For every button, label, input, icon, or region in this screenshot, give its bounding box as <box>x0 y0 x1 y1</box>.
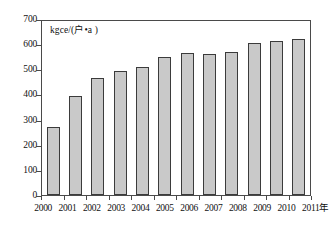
bar-series <box>42 21 310 195</box>
bar-slot <box>243 21 265 195</box>
x-tick-label: 2008 <box>226 203 250 213</box>
x-tick-mark <box>199 196 200 200</box>
bar-slot <box>64 21 86 195</box>
bar <box>136 67 149 196</box>
x-tick-mark <box>289 196 290 200</box>
bar-chart: 700 600 500 400 300 200 100 0 kgce/(户•a … <box>0 0 331 231</box>
bar-slot <box>109 21 131 195</box>
bar-slot <box>131 21 153 195</box>
bar <box>91 78 104 195</box>
y-tick-label: 400 <box>3 90 37 99</box>
y-tick-label: 300 <box>3 116 37 125</box>
x-tick-label: 2007 <box>201 203 225 213</box>
x-axis-labels: 2000 2001 2002 2003 2004 2005 2006 2007 … <box>31 203 323 217</box>
bar <box>248 43 261 195</box>
bar <box>69 96 82 195</box>
bar-slot <box>198 21 220 195</box>
y-tick-label: 0 <box>3 191 37 200</box>
y-tick-label: 700 <box>3 15 37 24</box>
x-tick-mark <box>41 196 42 200</box>
y-tick-label: 600 <box>3 40 37 49</box>
bar <box>114 71 127 195</box>
y-tick-label: 100 <box>3 166 37 175</box>
bar <box>158 57 171 195</box>
x-tick-mark <box>176 196 177 200</box>
bar-slot <box>154 21 176 195</box>
x-tick-label: 2002 <box>80 203 104 213</box>
y-tick-label: 500 <box>3 65 37 74</box>
x-axis-unit-label: 年 <box>319 203 329 213</box>
bar-slot <box>265 21 287 195</box>
x-tick-mark <box>221 196 222 200</box>
bar-slot <box>42 21 64 195</box>
x-tick-mark <box>131 196 132 200</box>
x-tick-mark <box>266 196 267 200</box>
x-tick-label: 2000 <box>31 203 55 213</box>
bar <box>203 54 216 195</box>
bar <box>47 127 60 195</box>
x-tick-label: 2001 <box>55 203 79 213</box>
x-tick-label: 2003 <box>104 203 128 213</box>
x-tick-label: 2004 <box>128 203 152 213</box>
x-tick-label: 2006 <box>177 203 201 213</box>
bar-slot <box>176 21 198 195</box>
bar <box>292 39 305 195</box>
x-tick-mark <box>64 196 65 200</box>
bar-slot <box>221 21 243 195</box>
x-tick-mark <box>109 196 110 200</box>
x-tick-label: 2010 <box>274 203 298 213</box>
x-tick-label: 2009 <box>250 203 274 213</box>
bar <box>181 53 194 195</box>
bar-slot <box>87 21 109 195</box>
bar-slot <box>288 21 310 195</box>
x-tick-mark <box>244 196 245 200</box>
x-tick-label: 2005 <box>153 203 177 213</box>
x-tick-mark <box>311 196 312 200</box>
bar <box>270 41 283 195</box>
x-tick-mark <box>86 196 87 200</box>
bar <box>225 52 238 195</box>
x-tick-mark <box>154 196 155 200</box>
y-tick-label: 200 <box>3 141 37 150</box>
